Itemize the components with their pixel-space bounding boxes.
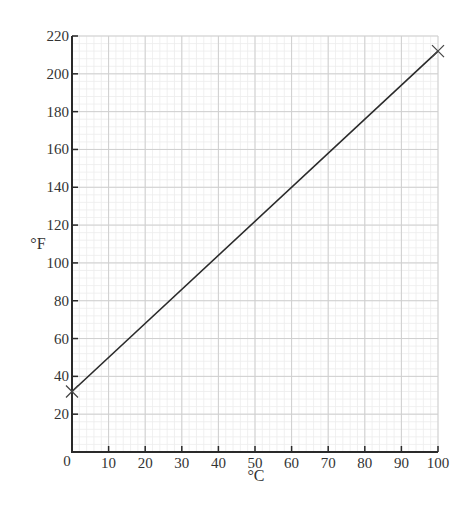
y-tick-label: 160: [47, 141, 70, 157]
y-tick-label: 60: [54, 331, 69, 347]
x-tick-label: 80: [357, 455, 372, 471]
y-tick-label: 200: [47, 66, 70, 82]
y-tick-label: 220: [47, 28, 70, 44]
y-tick-label: 20: [54, 406, 69, 422]
chart: 1020304050607080901002040608010012014016…: [0, 0, 474, 511]
origin-label: 0: [63, 453, 71, 469]
x-axis-label: °C: [247, 467, 264, 484]
x-tick-label: 70: [321, 455, 336, 471]
x-tick-label: 20: [138, 455, 153, 471]
y-tick-label: 180: [47, 104, 70, 120]
x-tick-label: 40: [211, 455, 226, 471]
x-tick-label: 30: [174, 455, 189, 471]
y-tick-label: 40: [54, 368, 69, 384]
x-tick-label: 100: [427, 455, 450, 471]
x-tick-label: 60: [284, 455, 299, 471]
y-tick-label: 120: [47, 217, 70, 233]
y-axis-label: °F: [30, 235, 45, 252]
x-tick-label: 90: [394, 455, 409, 471]
x-tick-label: 10: [101, 455, 116, 471]
y-tick-label: 100: [47, 255, 70, 271]
y-tick-label: 80: [54, 293, 69, 309]
y-tick-label: 140: [47, 179, 70, 195]
major-grid: [72, 36, 438, 452]
